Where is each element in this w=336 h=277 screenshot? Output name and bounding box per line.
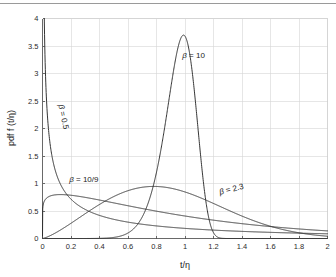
y-tick-label: 1.5 (28, 152, 38, 161)
curve-label: β = 10/9 (68, 175, 99, 184)
x-tick-label: 1.2 (208, 242, 218, 251)
curve-label: β = 2.3 (217, 182, 245, 197)
x-tick-label: 0.2 (66, 242, 76, 251)
x-tick-label: 1.4 (237, 242, 247, 251)
y-tick-label: 3 (34, 69, 38, 78)
x-tick-label: 0.6 (123, 242, 133, 251)
weibull-pdf-chart: 00.20.40.60.811.21.41.61.82 00.511.522.5… (0, 0, 336, 277)
x-tick-label: 1 (183, 242, 187, 251)
y-tick-label: 4 (34, 14, 38, 23)
y-tick-label: 2 (34, 124, 38, 133)
x-tick-label: 0 (40, 242, 44, 251)
y-tick-label: 3.5 (28, 42, 38, 51)
x-tick-label: 1.8 (294, 242, 304, 251)
curve-annotations: β = 0.5β = 10/9β = 2.3β = 10 (56, 51, 245, 197)
y-tick-label: 1 (34, 179, 38, 188)
x-tick-label: 0.8 (151, 242, 161, 251)
x-tick-label: 1.6 (265, 242, 275, 251)
y-tick-label: 0 (34, 234, 38, 243)
x-axis-title: t/η (180, 260, 190, 270)
curve-label: β = 0.5 (56, 103, 70, 131)
x-tick-label: 2 (325, 242, 329, 251)
y-tick-label: 0.5 (28, 207, 38, 216)
y-axis-title: pdf f (t/η) (6, 110, 16, 146)
x-tick-label: 0.4 (94, 242, 104, 251)
y-axis-tick-labels: 00.511.522.533.54 (28, 14, 38, 243)
x-axis-tick-labels: 00.20.40.60.811.21.41.61.82 (40, 242, 329, 251)
curve-label: β = 10 (181, 51, 205, 60)
y-tick-label: 2.5 (28, 97, 38, 106)
